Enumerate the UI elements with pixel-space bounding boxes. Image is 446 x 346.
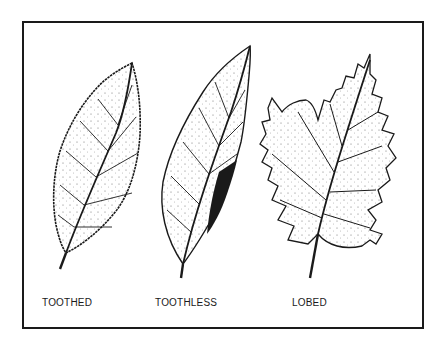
label-lobed: LOBED <box>292 297 327 308</box>
label-toothed: TOOTHED <box>42 297 92 308</box>
label-toothless: TOOTHLESS <box>155 297 217 308</box>
toothed-leaf-illustration <box>40 55 150 280</box>
lobed-leaf-illustration <box>258 50 398 280</box>
toothless-leaf-illustration <box>155 42 255 282</box>
